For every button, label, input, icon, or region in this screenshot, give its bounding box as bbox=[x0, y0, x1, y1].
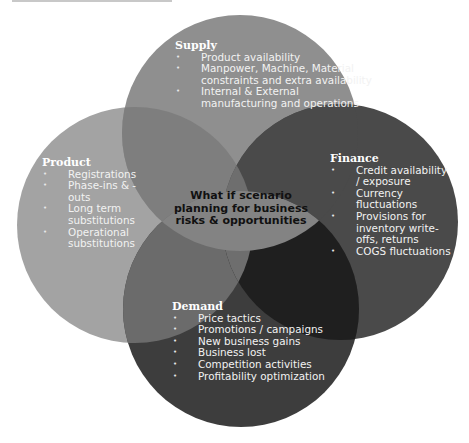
product-item: Phase-ins & - outs bbox=[42, 180, 138, 203]
finance-item: Credit availability / exposure bbox=[330, 165, 452, 188]
supply-list: Product availability Manpower, Machine, … bbox=[175, 52, 375, 110]
supply-item: Manpower, Machine, Material constraints … bbox=[175, 63, 375, 86]
finance-list: Credit availability / exposure Currency … bbox=[330, 165, 452, 258]
finance-title: Finance bbox=[330, 153, 452, 165]
product-item: Long term substitutions bbox=[42, 203, 138, 226]
product-title: Product bbox=[42, 157, 138, 169]
supply-block: Supply Product availability Manpower, Ma… bbox=[175, 40, 375, 110]
demand-list: Price tactics Promotions / campaigns New… bbox=[172, 313, 362, 383]
supply-item: Internal & External manufacturing and op… bbox=[175, 86, 375, 109]
supply-title: Supply bbox=[175, 40, 375, 52]
demand-block: Demand Price tactics Promotions / campai… bbox=[172, 301, 362, 382]
demand-item: Competition activities bbox=[172, 359, 362, 371]
finance-block: Finance Credit availability / exposure C… bbox=[330, 153, 452, 257]
product-list: Registrations Phase-ins & - outs Long te… bbox=[42, 169, 138, 250]
product-item: Operational substitutions bbox=[42, 227, 138, 250]
finance-item: COGS fluctuations bbox=[330, 246, 452, 258]
product-block: Product Registrations Phase-ins & - outs… bbox=[42, 157, 138, 250]
demand-title: Demand bbox=[172, 301, 362, 313]
finance-item: Provisions for inventory write-offs, ret… bbox=[330, 211, 452, 246]
demand-item: Profitability optimization bbox=[172, 371, 362, 383]
center-label: What if scenario planning for business r… bbox=[170, 190, 312, 228]
finance-item: Currency fluctuations bbox=[330, 188, 452, 211]
